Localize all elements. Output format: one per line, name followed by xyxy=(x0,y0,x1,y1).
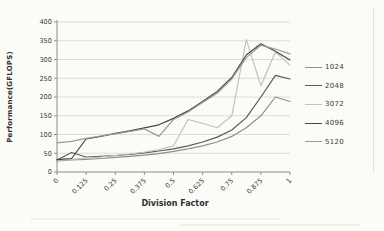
performance-line-chart: 05010015020025030035040000.1250.250.3750… xyxy=(0,0,384,231)
y-tick-label: 0 xyxy=(48,168,52,176)
legend-swatch-4096 xyxy=(305,123,322,124)
legend-label: 4096 xyxy=(325,119,344,127)
legend-swatch-1024 xyxy=(305,67,322,68)
legend-label: 3072 xyxy=(325,100,344,108)
y-tick-label: 100 xyxy=(39,131,52,139)
series-line-5120 xyxy=(57,45,290,143)
series-line-2048 xyxy=(57,75,290,160)
series-line-1024 xyxy=(57,97,290,161)
x-tick-label: 0.25 xyxy=(103,177,119,193)
x-tick-label: 0.375 xyxy=(129,177,148,196)
legend-item-3072: 3072 xyxy=(305,95,375,114)
x-axis-title: Division Factor xyxy=(110,199,240,208)
x-tick-label: 0.5 xyxy=(164,177,177,190)
series-line-3072 xyxy=(57,40,290,161)
legend: 10242048307240965120 xyxy=(305,58,375,151)
x-tick-label: 0.625 xyxy=(187,177,206,196)
y-tick-label: 150 xyxy=(39,112,52,120)
x-tick-label: 0.125 xyxy=(71,177,90,196)
x-tick-label: 0.875 xyxy=(245,177,264,196)
legend-label: 2048 xyxy=(325,82,344,90)
y-tick-label: 200 xyxy=(39,93,52,101)
y-tick-label: 400 xyxy=(39,18,52,26)
series-line-4096 xyxy=(57,44,290,160)
y-axis-title: Performance(GFLOPS) xyxy=(6,49,14,145)
y-tick-label: 250 xyxy=(39,75,52,83)
legend-label: 1024 xyxy=(325,63,344,71)
legend-swatch-2048 xyxy=(305,85,322,86)
x-tick-label: 0.75 xyxy=(219,177,235,193)
x-tick-label: 1 xyxy=(285,177,294,186)
y-tick-label: 50 xyxy=(44,150,52,158)
x-tick-label: 0 xyxy=(52,177,61,186)
legend-item-1024: 1024 xyxy=(305,58,375,77)
y-tick-label: 300 xyxy=(39,56,52,64)
legend-item-2048: 2048 xyxy=(305,77,375,96)
legend-swatch-3072 xyxy=(305,104,322,105)
legend-label: 5120 xyxy=(325,138,344,146)
scanned-figure-page: 05010015020025030035040000.1250.250.3750… xyxy=(0,0,384,231)
y-tick-label: 350 xyxy=(39,37,52,45)
legend-item-5120: 5120 xyxy=(305,132,375,151)
legend-swatch-5120 xyxy=(305,141,322,142)
legend-item-4096: 4096 xyxy=(305,114,375,133)
